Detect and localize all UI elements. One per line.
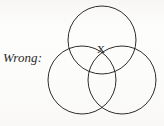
bottom-right-circle (88, 46, 156, 114)
center-region-x-mark: X (97, 43, 105, 55)
three-circle-venn-diagram: X (0, 0, 164, 126)
bottom-left-circle (48, 46, 116, 114)
figure-root: Wrong: X (0, 0, 164, 126)
top-circle (68, 6, 136, 74)
